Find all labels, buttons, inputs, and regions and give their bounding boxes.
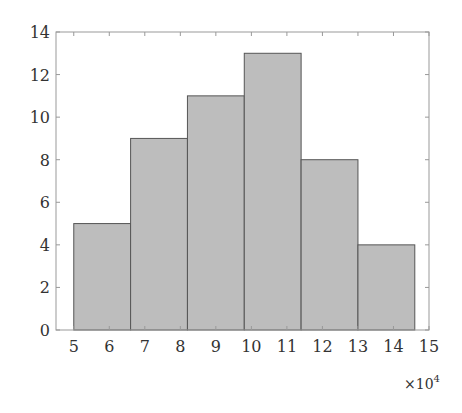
x-tick-label: 11 — [277, 337, 297, 356]
histogram-chart: 56789101112131415 02468101214 ×104 — [0, 0, 462, 413]
y-tick-label: 6 — [40, 193, 50, 212]
x-tick-label: 8 — [175, 337, 185, 356]
x-tick-label: 14 — [383, 337, 403, 356]
x-multiplier-label: ×104 — [404, 373, 440, 392]
x-tick-label: 13 — [348, 337, 368, 356]
y-tick-label: 0 — [40, 321, 50, 340]
y-tick-label: 4 — [40, 236, 50, 255]
histogram-bar — [358, 245, 415, 330]
y-tick-label: 10 — [30, 108, 50, 127]
y-tick-label: 12 — [30, 66, 50, 85]
x-tick-label: 9 — [211, 337, 221, 356]
histogram-bar — [244, 53, 301, 330]
x-tick-label: 5 — [69, 337, 79, 356]
x-tick-label: 7 — [140, 337, 150, 356]
histogram-bar — [187, 96, 244, 330]
histogram-bar — [131, 138, 188, 330]
histogram-bar — [301, 160, 358, 330]
y-tick-label: 2 — [40, 278, 50, 297]
x-tick-label: 12 — [312, 337, 332, 356]
bars-group — [74, 53, 415, 330]
y-tick-label: 8 — [40, 151, 50, 170]
x-tick-label: 10 — [241, 337, 261, 356]
x-tick-label: 6 — [104, 337, 114, 356]
x-tick-label: 15 — [419, 337, 439, 356]
histogram-bar — [74, 224, 131, 330]
y-tick-label: 14 — [30, 23, 50, 42]
